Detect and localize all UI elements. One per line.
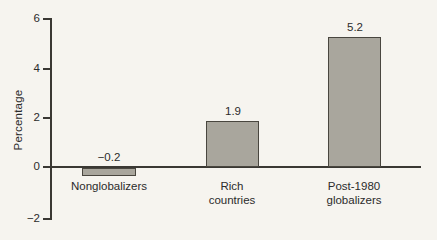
x-category-line-1: Rich xyxy=(182,180,282,194)
bar-nonglobalizers[interactable] xyxy=(82,168,136,176)
x-category-line-1: Post-1980 xyxy=(304,180,404,194)
x-category-line-2: globalizers xyxy=(304,194,404,208)
y-tick-6 xyxy=(43,18,50,20)
y-tick-label-2: 2 xyxy=(18,112,40,123)
bar-value-post-1980-globalizers: 5.2 xyxy=(325,21,385,33)
y-tick-label-6: 6 xyxy=(18,13,40,24)
bar-post-1980-globalizers[interactable] xyxy=(328,37,381,167)
x-category-label-post-1980-globalizers: Post-1980 globalizers xyxy=(304,180,404,207)
bar-rich-countries[interactable] xyxy=(206,121,259,167)
y-tick-label-4: 4 xyxy=(18,63,40,74)
y-axis-line xyxy=(50,18,52,220)
y-tick--2 xyxy=(43,218,50,220)
x-category-label-nonglobalizers: Nonglobalizers xyxy=(59,180,159,194)
bar-value-rich-countries: 1.9 xyxy=(203,105,263,117)
y-tick-0 xyxy=(43,166,50,168)
x-category-line-1: Nonglobalizers xyxy=(59,180,159,194)
x-category-line-2: countries xyxy=(182,194,282,208)
y-tick-4 xyxy=(43,68,50,70)
bar-value-nonglobalizers: −0.2 xyxy=(79,151,139,163)
y-tick-label-0: 0 xyxy=(18,161,40,172)
x-category-label-rich-countries: Rich countries xyxy=(182,180,282,207)
bar-chart: Percentage 6 4 2 0 −2 −0.2 1.9 5.2 Nongl… xyxy=(0,0,437,240)
y-tick-2 xyxy=(43,117,50,119)
y-tick-label--2: −2 xyxy=(18,213,40,224)
